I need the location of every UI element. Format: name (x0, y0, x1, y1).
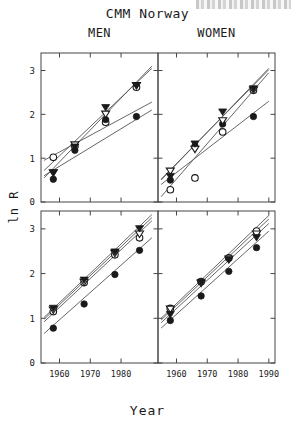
series-filled-circle (167, 244, 260, 323)
panel-top-right (158, 53, 275, 202)
x-tick-label: 1980 (111, 369, 131, 379)
figure-root: CMM Norway MEN WOMEN ln R Year 012319601… (0, 0, 295, 429)
fit-line-open-triangle (44, 218, 152, 319)
fit-line-filled-triangle (44, 102, 152, 160)
plot-canvas: 012319601970198001231960197019801990 (0, 0, 295, 429)
fit-line-filled-triangle (44, 215, 152, 318)
series-filled-circle (50, 247, 143, 331)
data-point (219, 129, 226, 136)
panel-top-left: 0123 (30, 53, 158, 207)
fit-lines (161, 215, 269, 328)
fit-lines (44, 215, 152, 334)
data-point (133, 113, 139, 119)
y-tick-label: 0 (30, 197, 35, 207)
panel-bottom-right: 1960197019801990 (158, 211, 279, 379)
y-tick-label: 1 (30, 314, 35, 324)
y-tick-label: 0 (30, 358, 35, 368)
data-point (253, 244, 259, 250)
x-tick-label: 1970 (197, 369, 217, 379)
data-point (49, 170, 57, 176)
data-point (50, 325, 56, 331)
x-tick-label: 1960 (49, 369, 69, 379)
panel-bottom-left: 1960197019800123 (30, 211, 158, 379)
fit-line-filled-triangle (161, 224, 269, 323)
x-tick-label: 1960 (166, 369, 186, 379)
y-tick-label: 3 (30, 224, 35, 234)
fit-line-filled-triangle (161, 68, 269, 180)
data-point (192, 175, 199, 182)
data-point (167, 186, 174, 193)
x-tick-label: 1990 (259, 369, 279, 379)
fit-line-filled-circle (161, 231, 269, 328)
series-open-circle (167, 87, 257, 193)
data-point (198, 293, 204, 299)
x-tick-label: 1970 (80, 369, 100, 379)
fit-line-open-triangle (161, 219, 269, 320)
data-markers (166, 228, 260, 324)
data-point (136, 247, 142, 253)
data-point (50, 154, 57, 161)
data-point (112, 271, 118, 277)
series-open-triangle (166, 87, 257, 174)
series-filled-circle (50, 113, 140, 182)
y-tick-label: 3 (30, 66, 35, 76)
series-filled-triangle (166, 86, 257, 180)
y-tick-label: 2 (30, 110, 35, 120)
series-filled-triangle (49, 83, 140, 177)
data-point (81, 301, 87, 307)
x-tick-label: 1980 (228, 369, 248, 379)
series-filled-circle (167, 113, 257, 183)
fit-line-filled-circle (44, 238, 152, 334)
series-open-triangle (49, 83, 140, 177)
y-tick-label: 2 (30, 269, 35, 279)
fit-line-open-circle (44, 221, 152, 322)
data-point (226, 268, 232, 274)
y-tick-label: 1 (30, 154, 35, 164)
data-point (250, 113, 256, 119)
